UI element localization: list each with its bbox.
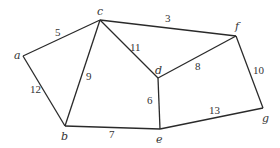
edge-weight-e-g: 13 (209, 104, 221, 116)
node-label-d: d (155, 64, 162, 77)
edge-d-e (158, 78, 160, 129)
edge-weight-c-f: 3 (165, 12, 171, 24)
node-label-a: a (14, 49, 21, 62)
node-label-e: e (156, 133, 163, 146)
edge-a-c (23, 20, 100, 56)
edge-weight-d-f: 8 (195, 60, 201, 72)
node-labels: abcdefg (14, 5, 269, 146)
edge-weight-labels: 51293118671310 (30, 12, 265, 140)
edge-c-b (65, 20, 100, 126)
edge-weight-f-g: 10 (253, 64, 265, 76)
node-label-f: f (234, 20, 241, 33)
edge-weight-c-d: 11 (130, 41, 141, 53)
edge-weight-d-e: 6 (147, 94, 153, 106)
edge-weight-b-e: 7 (109, 128, 115, 140)
node-label-c: c (97, 5, 103, 18)
edge-weight-c-b: 9 (86, 70, 92, 82)
node-label-g: g (262, 112, 269, 125)
node-label-b: b (61, 130, 68, 143)
edge-weight-a-c: 5 (55, 26, 61, 38)
edge-weight-a-b: 12 (30, 83, 41, 95)
edge-c-d (100, 20, 158, 78)
weighted-graph-diagram: 51293118671310 abcdefg (0, 0, 280, 148)
